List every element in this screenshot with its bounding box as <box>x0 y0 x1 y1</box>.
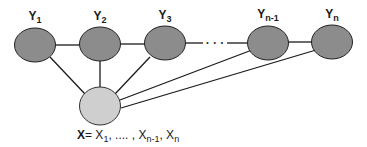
label-x-bold: X <box>77 128 85 142</box>
node-yn-1 <box>248 26 289 60</box>
node-y1 <box>15 28 56 62</box>
label-xn-sub: n <box>174 134 179 144</box>
label-xn-main: X <box>166 128 174 142</box>
label-y1-main: Y <box>28 9 36 23</box>
ellipsis: · · · <box>206 36 225 50</box>
node-x <box>80 87 121 125</box>
label-y3-sub: 3 <box>167 14 172 24</box>
edge-x-yn <box>121 50 316 108</box>
label-xn-1-sub: n-1 <box>146 134 159 144</box>
label-y3-main: Y <box>158 8 166 22</box>
node-y2 <box>80 27 121 61</box>
label-y2-main: Y <box>93 9 101 23</box>
label-y3: Y3 <box>158 8 171 24</box>
label-y2: Y2 <box>93 9 106 25</box>
label-yn: Yn <box>325 7 339 23</box>
label-y1-sub: 1 <box>37 15 42 25</box>
label-y1: Y1 <box>28 9 41 25</box>
y-nodes <box>15 25 353 62</box>
label-yn-main: Y <box>325 7 333 21</box>
label-x-definition: X= X1, .... , Xn-1, Xn <box>77 128 179 144</box>
edge-x-y1 <box>50 57 85 94</box>
edge-x-y3 <box>115 57 150 94</box>
node-yn <box>312 25 353 59</box>
label-x1-sep: , .... , <box>108 128 138 142</box>
label-y2-sub: 2 <box>102 15 107 25</box>
label-yn-1: Yn-1 <box>257 7 279 23</box>
diagram-canvas: · · · <box>0 0 367 147</box>
label-x-equals: = <box>85 128 95 142</box>
label-yn-1-main: Y <box>257 7 265 21</box>
label-yn-sub: n <box>333 13 339 23</box>
node-y3 <box>145 26 186 60</box>
label-yn-1-sub: n-1 <box>265 13 279 23</box>
